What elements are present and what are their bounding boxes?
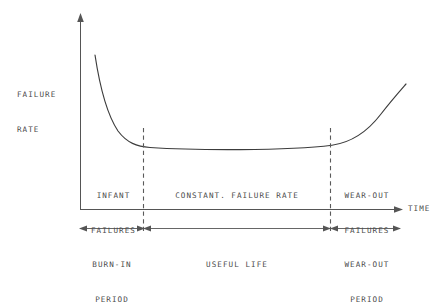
zone-label-wearout-line2: FAILURES bbox=[334, 225, 400, 237]
y-axis-arrowhead-icon bbox=[77, 13, 84, 22]
period-label-useful-life: USEFUL LIFE bbox=[150, 236, 324, 294]
y-axis-label: FAILURE RATE bbox=[17, 66, 77, 158]
y-axis-label-line1: FAILURE bbox=[17, 89, 77, 101]
y-axis-label-line2: RATE bbox=[17, 124, 77, 136]
zone-label-infant-line1: INFANT bbox=[86, 190, 141, 202]
period-label-wear-out-line2: PERIOD bbox=[334, 294, 400, 306]
zone-label-constant-line1: CONSTANT. FAILURE RATE bbox=[150, 190, 324, 202]
y-axis bbox=[77, 13, 84, 209]
curve-path bbox=[95, 55, 406, 150]
zone-label-infant-line2: FAILURES bbox=[86, 225, 141, 237]
period-label-burn-in: BURN-IN PERIOD bbox=[80, 236, 144, 306]
dimension-arrow-right-useful-life-icon bbox=[323, 226, 331, 232]
x-axis-label: TIME bbox=[408, 203, 443, 215]
period-label-burn-in-line2: PERIOD bbox=[80, 294, 144, 306]
dimension-arrow-left-useful-life-icon bbox=[143, 226, 151, 232]
period-label-useful-life-line1: USEFUL LIFE bbox=[150, 259, 324, 271]
period-label-wear-out-line1: WEAR-OUT bbox=[334, 259, 400, 271]
zone-label-constant-failure-rate: CONSTANT. FAILURE RATE bbox=[150, 167, 324, 225]
failure-rate-curve bbox=[95, 55, 406, 150]
zone-label-wearout-line1: WEAR-OUT bbox=[334, 190, 400, 202]
period-label-burn-in-line1: BURN-IN bbox=[80, 259, 144, 271]
period-label-wear-out: WEAR-OUT PERIOD bbox=[334, 236, 400, 306]
